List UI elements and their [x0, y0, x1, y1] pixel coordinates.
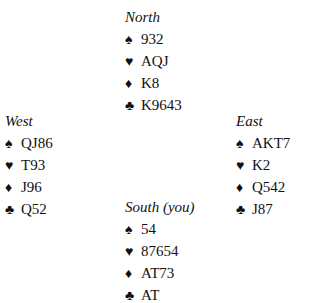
south-hearts-cards: 87654 [141, 243, 179, 259]
north-diamonds-cards: K8 [141, 75, 159, 91]
diamond-icon: ♦ [236, 177, 252, 199]
east-label: East [236, 110, 290, 132]
spade-icon: ♠ [125, 219, 141, 241]
club-icon: ♣ [125, 95, 141, 117]
diamond-icon: ♦ [125, 73, 141, 95]
east-hearts-cards: K2 [252, 157, 270, 173]
south-label: South (you) [125, 196, 195, 218]
east-clubs: ♣J87 [236, 198, 290, 220]
south-clubs-cards: AT [141, 287, 159, 303]
west-spades-cards: QJ86 [21, 135, 53, 151]
west-hearts: ♥T93 [5, 154, 53, 176]
east-clubs-cards: J87 [252, 201, 273, 217]
east-hearts: ♥K2 [236, 154, 290, 176]
spade-icon: ♠ [5, 133, 21, 155]
east-spades: ♠AKT7 [236, 132, 290, 154]
heart-icon: ♥ [236, 155, 252, 177]
north-hand: North ♠932 ♥AQJ ♦K8 ♣K9643 [125, 6, 182, 116]
club-icon: ♣ [125, 285, 141, 303]
diamond-icon: ♦ [125, 263, 141, 285]
spade-icon: ♠ [236, 133, 252, 155]
north-hearts-cards: AQJ [141, 53, 169, 69]
north-clubs: ♣K9643 [125, 94, 182, 116]
south-hearts: ♥87654 [125, 240, 195, 262]
west-spades: ♠QJ86 [5, 132, 53, 154]
east-hand: East ♠AKT7 ♥K2 ♦Q542 ♣J87 [236, 110, 290, 220]
east-diamonds-cards: Q542 [252, 179, 285, 195]
north-diamonds: ♦K8 [125, 72, 182, 94]
south-spades-cards: 54 [141, 221, 156, 237]
club-icon: ♣ [5, 199, 21, 221]
north-clubs-cards: K9643 [141, 97, 182, 113]
west-hand: West ♠QJ86 ♥T93 ♦J96 ♣Q52 [5, 110, 53, 220]
west-label: West [5, 110, 53, 132]
north-spades: ♠932 [125, 28, 182, 50]
south-spades: ♠54 [125, 218, 195, 240]
west-clubs: ♣Q52 [5, 198, 53, 220]
west-diamonds: ♦J96 [5, 176, 53, 198]
club-icon: ♣ [236, 199, 252, 221]
north-spades-cards: 932 [141, 31, 164, 47]
east-diamonds: ♦Q542 [236, 176, 290, 198]
east-spades-cards: AKT7 [252, 135, 290, 151]
west-diamonds-cards: J96 [21, 179, 42, 195]
south-clubs: ♣AT [125, 284, 195, 303]
west-hearts-cards: T93 [21, 157, 45, 173]
west-clubs-cards: Q52 [21, 201, 47, 217]
heart-icon: ♥ [5, 155, 21, 177]
spade-icon: ♠ [125, 29, 141, 51]
heart-icon: ♥ [125, 241, 141, 263]
north-hearts: ♥AQJ [125, 50, 182, 72]
south-diamonds: ♦AT73 [125, 262, 195, 284]
heart-icon: ♥ [125, 51, 141, 73]
south-diamonds-cards: AT73 [141, 265, 174, 281]
south-hand: South (you) ♠54 ♥87654 ♦AT73 ♣AT [125, 196, 195, 303]
diamond-icon: ♦ [5, 177, 21, 199]
north-label: North [125, 6, 182, 28]
